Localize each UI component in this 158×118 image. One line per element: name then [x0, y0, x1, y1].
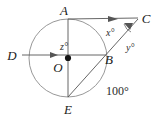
geometry-figure: A B C D E O z° x° y° 100° — [0, 0, 158, 118]
angle-label-x: x° — [105, 27, 114, 38]
angle-label-y: y° — [125, 42, 134, 53]
angle-label-arc100: 100° — [106, 84, 129, 98]
angle-label-z: z° — [59, 41, 68, 52]
arrow-on-DB-icon — [50, 52, 58, 58]
point-label-A: A — [59, 3, 68, 18]
arrow-on-AC-icon — [108, 16, 118, 22]
point-label-E: E — [63, 102, 72, 117]
geometry-canvas: A B C D E O z° x° y° 100° — [0, 0, 158, 118]
segment-AC — [68, 18, 138, 19]
center-dot-icon — [65, 55, 71, 61]
point-label-C: C — [142, 11, 151, 26]
point-label-B: B — [105, 52, 113, 67]
point-label-D: D — [6, 48, 17, 63]
point-label-O: O — [53, 60, 63, 75]
